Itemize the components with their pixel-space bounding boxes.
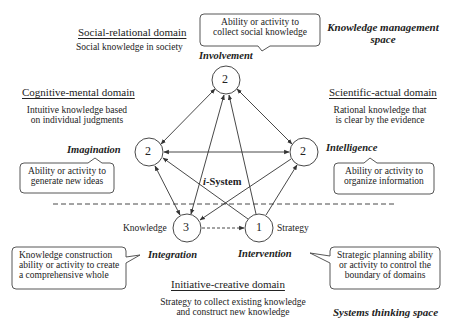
callout-line: organize information — [334, 176, 434, 186]
callout-line: or activity to control the — [330, 260, 440, 270]
node-intelligence-value: 2 — [300, 145, 306, 159]
i-system-suffix: -System — [206, 176, 242, 187]
node-involvement-value: 2 — [222, 73, 228, 87]
role-intelligence: Intelligence — [326, 142, 377, 154]
node-intervention-value: 1 — [256, 221, 262, 235]
knowledge-management-space-label: Knowledge management space — [318, 21, 448, 45]
callout-line: Ability or activity to — [334, 166, 434, 176]
integration-side-label: Knowledge — [123, 223, 167, 234]
node-integration-value: 3 — [183, 221, 189, 235]
callout-line: collect social knowledge — [200, 27, 320, 37]
systems-thinking-space-label: Systems thinking space — [333, 306, 438, 319]
callout-imagination: Ability or activity to generate new idea… — [20, 166, 114, 186]
edge-intervention-imagination — [163, 158, 248, 219]
edge-involvement-imagination — [161, 89, 215, 144]
callout-line: a comprehensive whole — [19, 270, 125, 280]
callout-line: Ability or activity to — [20, 166, 114, 176]
edge-involvement-intelligence — [237, 89, 292, 144]
domain-scientific-desc: Rational knowledge that is clear by the … — [330, 105, 430, 125]
domain-cognitive-desc-line: Intuitive knowledge based — [22, 105, 132, 115]
domain-social-title: Social-relational domain — [78, 26, 186, 39]
callout-line: Ability or activity to — [200, 17, 320, 27]
role-involvement: Involvement — [199, 50, 253, 62]
role-integration: Integration — [148, 249, 197, 261]
domain-social-desc: Social knowledge in society — [76, 42, 183, 53]
domain-scientific-desc-line: Rational knowledge that — [330, 105, 430, 115]
callout-line: generate new ideas — [20, 176, 114, 186]
callout-line: Strategic planning ability — [330, 250, 440, 260]
callout-involvement: Ability or activity to collect social kn… — [200, 17, 320, 37]
edge-imagination-integration — [155, 166, 180, 215]
edge-intervention-involvement — [229, 95, 256, 214]
callout-line: Knowledge construction — [19, 250, 125, 260]
callout-line: ability or activity to create — [19, 260, 125, 270]
node-imagination-value: 2 — [145, 145, 151, 159]
domain-initiative-title: Initiative-creative domain — [171, 278, 285, 291]
domain-initiative-desc-line: and construct new knowledge — [148, 307, 318, 317]
domain-scientific-title: Scientific-actual domain — [329, 86, 437, 99]
callout-integration: Knowledge construction ability or activi… — [19, 250, 125, 280]
space-label-line: space — [318, 33, 448, 45]
callout-intelligence: Ability or activity to organize informat… — [334, 166, 434, 186]
role-imagination: Imagination — [67, 144, 121, 156]
space-label-line: Knowledge management — [318, 21, 448, 33]
i-system-label: i-System — [203, 176, 242, 188]
domain-initiative-desc-line: Strategy to collect existing knowledge — [148, 297, 318, 307]
domain-cognitive-title: Cognitive-mental domain — [22, 86, 135, 99]
domain-initiative-desc: Strategy to collect existing knowledge a… — [148, 297, 318, 317]
domain-cognitive-desc-line: on individual judgments — [22, 115, 132, 125]
edge-involvement-integration — [191, 95, 224, 214]
intervention-side-label: Strategy — [277, 223, 309, 234]
domain-cognitive-desc: Intuitive knowledge based on individual … — [22, 105, 132, 125]
callout-intervention: Strategic planning ability or activity t… — [330, 250, 440, 280]
callout-line: boundary of domains — [330, 270, 440, 280]
domain-scientific-desc-line: is clear by the evidence — [330, 115, 430, 125]
role-intervention: Intervention — [238, 248, 292, 260]
